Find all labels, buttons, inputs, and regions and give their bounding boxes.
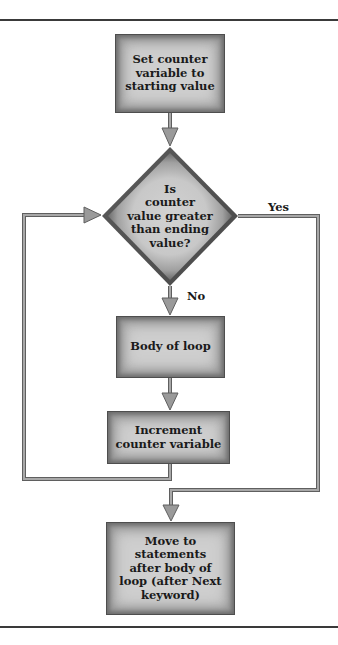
edge-label-no: No — [187, 289, 205, 303]
node-exit-loop: Move to statements after body of loop (a… — [106, 522, 235, 615]
node-exit-loop-text: Move to statements after body of loop (a… — [119, 535, 221, 603]
node-set-counter: Set counter variable to starting value — [115, 34, 225, 113]
node-increment-counter: Increment counter variable — [107, 411, 230, 464]
edge-label-yes: Yes — [268, 200, 289, 214]
top-rule — [0, 19, 338, 21]
bottom-rule — [0, 626, 338, 628]
node-body-of-loop-text: Body of loop — [130, 340, 211, 354]
connector-start-to-decision — [162, 113, 178, 146]
node-decision: Is counter value greater than ending val… — [102, 147, 238, 286]
node-set-counter-text: Set counter variable to starting value — [125, 53, 215, 94]
connector-decision-to-body — [162, 286, 178, 315]
node-increment-counter-text: Increment counter variable — [116, 424, 222, 451]
node-body-of-loop: Body of loop — [116, 316, 225, 378]
connector-body-to-increment — [162, 378, 178, 410]
node-decision-text: Is counter value greater than ending val… — [102, 147, 238, 286]
